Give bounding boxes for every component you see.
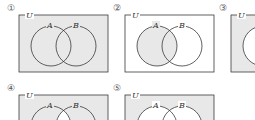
label-b: B	[178, 101, 185, 110]
option-number-5: ⑤	[113, 83, 121, 93]
label-b: B	[178, 21, 185, 30]
label-a: A	[152, 101, 159, 110]
venn-diagram-3[interactable]: U	[231, 11, 255, 72]
option-number-3: ③	[219, 3, 227, 13]
label-b: B	[72, 21, 79, 30]
label-u: U	[132, 91, 139, 100]
label-u: U	[26, 11, 33, 20]
label-a: A	[46, 101, 53, 110]
label-a: A	[152, 21, 159, 30]
option-number-2: ②	[113, 3, 121, 13]
option-number-4: ④	[7, 83, 15, 93]
venn-diagram-1[interactable]: U A B	[19, 11, 108, 72]
venn-diagram-2[interactable]: U A B	[125, 11, 214, 72]
venn-diagram-4[interactable]: U A B	[19, 91, 108, 120]
label-u: U	[238, 11, 245, 20]
label-u: U	[26, 91, 33, 100]
label-a: A	[46, 21, 53, 30]
universe-rect	[19, 15, 108, 72]
venn-diagrams: U A B U A B U U A B	[0, 0, 255, 120]
label-u: U	[132, 11, 139, 20]
venn-diagram-5[interactable]: U A B	[125, 91, 214, 120]
label-b: B	[72, 101, 79, 110]
